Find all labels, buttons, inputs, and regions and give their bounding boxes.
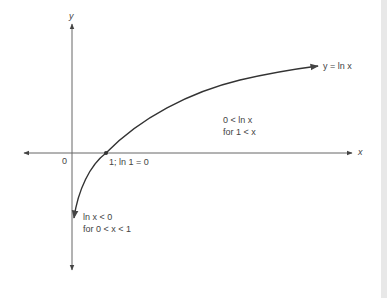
negative-annotation-line1: ln x < 0 (83, 212, 112, 223)
root-annotation: 1; ln 1 = 0 (109, 157, 149, 168)
ln-curve (74, 66, 318, 218)
positive-annotation-line1: 0 < ln x (223, 115, 252, 126)
curve-label: y = ln x (323, 61, 352, 72)
y-axis-label: y (69, 11, 74, 22)
origin-label: 0 (62, 156, 67, 167)
root-point (104, 151, 108, 155)
x-axis-label: x (358, 147, 363, 158)
positive-annotation-line2: for 1 < x (223, 127, 256, 138)
negative-annotation-line2: for 0 < x < 1 (83, 224, 131, 235)
page-edge-strip (381, 0, 387, 298)
ln-graph (0, 0, 387, 298)
